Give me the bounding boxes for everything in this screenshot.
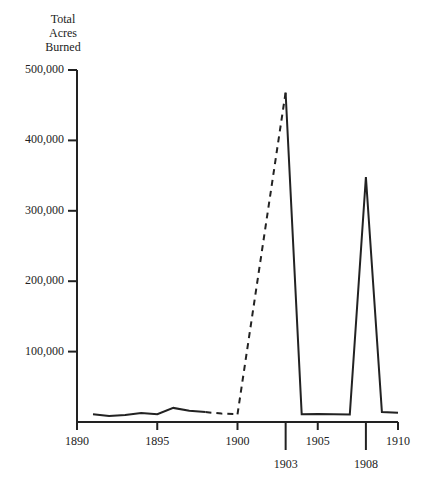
solid-line-segment [286, 93, 398, 415]
line-chart [0, 0, 432, 496]
dashed-line-segment [238, 93, 286, 415]
data-series [93, 93, 398, 417]
solid-line-segment [93, 408, 205, 416]
dashed-line-segment [205, 412, 237, 414]
axes [68, 70, 398, 450]
